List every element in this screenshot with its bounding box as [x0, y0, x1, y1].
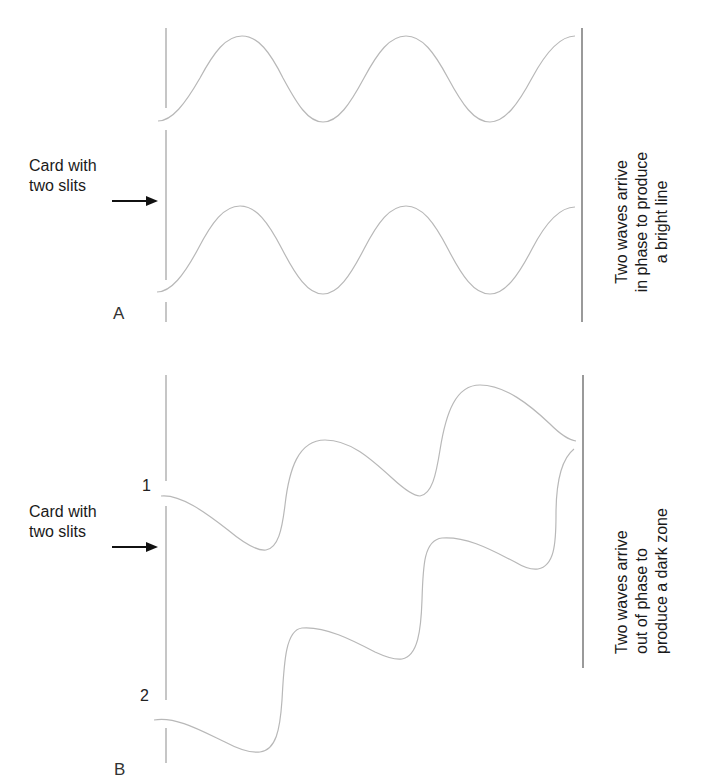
caption-b-line-2: out of phase to: [632, 454, 652, 654]
caption-a: Two waves arrive in phase to produce a b…: [612, 132, 672, 312]
card-label-b-line-2: two slits: [29, 522, 97, 542]
card-label-a-line-1: Card with: [29, 156, 97, 176]
panel-b: [112, 375, 583, 763]
card-label-b: Card with two slits: [29, 502, 97, 542]
arrow-icon: [112, 542, 158, 552]
caption-a-line-3: a bright line: [652, 132, 672, 312]
slit-label-2: 2: [140, 687, 149, 705]
wave-b-slit-2: [154, 449, 574, 752]
card-label-a-line-2: two slits: [29, 176, 97, 196]
caption-b: Two waves arrive out of phase to produce…: [612, 454, 672, 654]
caption-b-line-1: Two waves arrive: [612, 454, 632, 654]
wave-a-bottom: [157, 206, 575, 294]
wave-b-slit-1: [161, 385, 576, 550]
caption-a-line-1: Two waves arrive: [612, 132, 632, 312]
card-label-b-line-1: Card with: [29, 502, 97, 522]
wave-a-top: [158, 36, 575, 122]
slit-label-1: 1: [142, 477, 151, 495]
panel-a: [112, 28, 582, 322]
card-label-a: Card with two slits: [29, 156, 97, 196]
panel-letter-b: B: [114, 760, 125, 780]
caption-b-line-3: produce a dark zone: [652, 454, 672, 654]
double-slit-diagram: [0, 0, 705, 784]
caption-a-line-2: in phase to produce: [632, 132, 652, 312]
arrow-icon: [112, 196, 158, 206]
panel-letter-a: A: [113, 304, 124, 324]
